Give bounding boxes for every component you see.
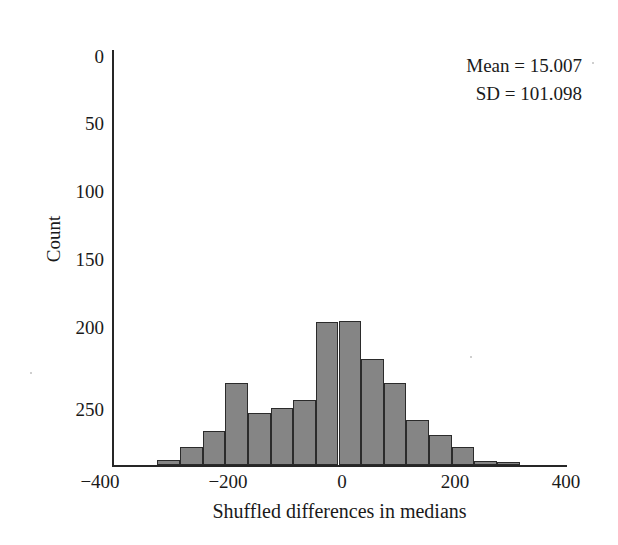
x-tick-label-0: 0 <box>297 472 387 491</box>
y-tick-text-0: 0 <box>95 46 105 67</box>
histogram-bar <box>361 359 384 465</box>
y-tick-text-50: 50 <box>85 113 104 134</box>
x-axis-title: Shuffled differences in medians <box>112 500 567 523</box>
x-tick-label-200: 200 <box>410 472 500 491</box>
y-tick-label-50: 50 <box>0 114 104 133</box>
scan-speck <box>470 356 472 358</box>
y-tick-text-250: 250 <box>76 399 105 420</box>
x-tick-label-400: 400 <box>521 472 611 491</box>
histogram-bar <box>452 447 475 465</box>
y-tick-text-150: 150 <box>76 249 105 270</box>
histogram-figure: 0 50 100 150 200 250 −400 −200 0 200 400… <box>0 0 618 545</box>
y-tick-text-100: 100 <box>76 181 105 202</box>
y-tick-label-200: 200 <box>0 318 104 337</box>
y-tick-text-200: 200 <box>76 317 105 338</box>
y-axis-title: Count <box>43 179 65 299</box>
bars-container <box>112 50 565 465</box>
histogram-bar <box>180 447 203 465</box>
histogram-bar <box>203 431 226 465</box>
x-tick-text-neg200: −200 <box>208 471 247 492</box>
x-tick-label-neg400: −400 <box>55 472 145 491</box>
histogram-bar <box>293 400 316 465</box>
x-tick-label-neg200: −200 <box>183 472 273 491</box>
x-tick-text-400: 400 <box>552 471 581 492</box>
histogram-bar <box>248 413 271 465</box>
histogram-bar <box>157 460 180 465</box>
scan-speck <box>592 62 594 64</box>
x-tick-text-0: 0 <box>337 471 347 492</box>
x-tick-text-neg400: −400 <box>80 471 119 492</box>
histogram-bar <box>497 462 520 465</box>
y-tick-label-250: 250 <box>0 400 104 419</box>
histogram-bar <box>316 322 339 465</box>
histogram-bar <box>474 461 497 465</box>
x-axis-line <box>112 465 567 467</box>
x-tick-text-200: 200 <box>441 471 470 492</box>
histogram-bar <box>225 383 248 465</box>
histogram-bar <box>271 408 294 465</box>
histogram-bar <box>339 321 362 465</box>
histogram-bar <box>406 420 429 465</box>
scan-speck <box>30 372 32 374</box>
y-tick-label-0: 0 <box>0 47 104 66</box>
histogram-bar <box>384 383 407 465</box>
histogram-bar <box>429 435 452 465</box>
